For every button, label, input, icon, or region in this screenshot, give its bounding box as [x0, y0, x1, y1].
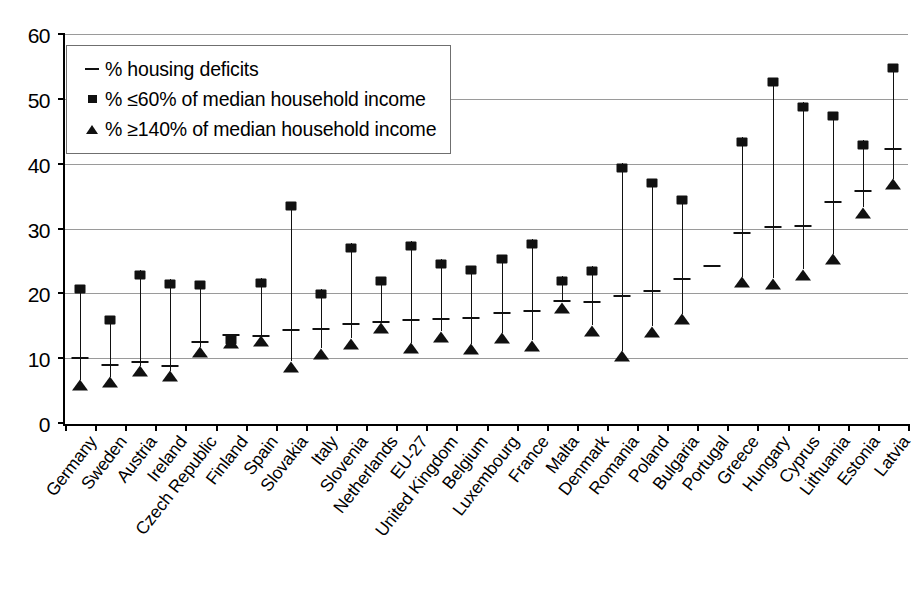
- gridline: [65, 34, 908, 35]
- legend-marker-glyph: [88, 95, 97, 103]
- marker-dash-housing-deficits: [343, 323, 360, 325]
- x-axis-tick-label: France: [537, 432, 554, 445]
- y-axis-tickmark: [58, 422, 65, 424]
- x-axis-tick-label: Hungary: [778, 432, 795, 445]
- range-stem: [170, 279, 171, 370]
- x-axis-tickmark: [757, 424, 759, 431]
- range-stem: [742, 137, 743, 276]
- marker-triangle-above-140-income: [403, 343, 419, 354]
- gridline: [65, 229, 908, 230]
- range-stem: [471, 266, 472, 344]
- y-axis-tickmark: [58, 292, 65, 294]
- marker-square-below-60-income: [827, 112, 838, 121]
- marker-square-below-60-income: [135, 270, 146, 279]
- range-stem: [833, 112, 834, 254]
- x-axis-tick-label: Greece: [747, 432, 764, 445]
- x-axis-tickmark: [396, 424, 398, 431]
- marker-square-below-60-income: [436, 259, 447, 268]
- y-axis-tickmark: [58, 163, 65, 165]
- x-axis-tick-label: United Kingdom: [446, 432, 463, 445]
- x-axis-tickmark: [818, 424, 820, 431]
- legend-item: % housing deficits: [79, 54, 436, 84]
- marker-square-below-60-income: [737, 137, 748, 146]
- x-axis-tick-label: Romania: [627, 432, 644, 445]
- marker-square-below-60-income: [797, 102, 808, 111]
- marker-dash-housing-deficits: [72, 357, 89, 359]
- marker-square-below-60-income: [466, 266, 477, 275]
- x-axis-tick-label: Lithuania: [838, 432, 855, 445]
- marker-square-below-60-income: [586, 266, 597, 275]
- marker-square-below-60-income: [496, 255, 507, 264]
- range-stem: [411, 241, 412, 343]
- marker-triangle-above-140-income: [102, 377, 118, 388]
- marker-dash-housing-deficits: [102, 364, 119, 366]
- marker-triangle-above-140-income: [162, 371, 178, 382]
- range-stem: [682, 196, 683, 314]
- x-axis-tick-label: Portugal: [717, 432, 734, 445]
- x-axis-tick-label: Denmark: [597, 432, 614, 445]
- marker-square-below-60-income: [616, 163, 627, 172]
- x-axis-tickmark: [517, 424, 519, 431]
- x-axis-tick-label: Italy: [326, 432, 343, 445]
- marker-square-below-60-income: [315, 289, 326, 298]
- marker-square-below-60-income: [195, 281, 206, 290]
- square-key-icon: [79, 95, 105, 103]
- marker-dash-housing-deficits: [132, 361, 149, 363]
- x-axis-tickmark: [456, 424, 458, 431]
- range-stem: [110, 316, 111, 377]
- x-axis-tickmark: [727, 424, 729, 431]
- marker-dash-housing-deficits: [704, 265, 721, 267]
- x-axis-tickmark: [426, 424, 428, 431]
- marker-triangle-above-140-income: [885, 179, 901, 190]
- legend-label: % housing deficits: [105, 58, 259, 81]
- x-axis-tick-label: Belgium: [476, 432, 493, 445]
- marker-dash-housing-deficits: [192, 341, 209, 343]
- gridline: [65, 358, 908, 359]
- x-axis-tick-label: Slovenia: [356, 432, 373, 445]
- marker-triangle-above-140-income: [554, 302, 570, 313]
- y-axis-tickmark: [58, 357, 65, 359]
- marker-triangle-above-140-income: [584, 325, 600, 336]
- marker-dash-housing-deficits: [794, 225, 811, 227]
- marker-square-below-60-income: [556, 276, 567, 285]
- x-axis-tickmark: [125, 424, 127, 431]
- x-axis-tickmark: [788, 424, 790, 431]
- range-stem: [773, 78, 774, 278]
- marker-triangle-above-140-income: [795, 269, 811, 280]
- marker-dash-housing-deficits: [463, 317, 480, 319]
- x-axis-tickmark: [155, 424, 157, 431]
- marker-dash-housing-deficits: [854, 190, 871, 192]
- marker-dash-housing-deficits: [312, 328, 329, 330]
- range-stem: [622, 163, 623, 350]
- marker-square-below-60-income: [165, 279, 176, 288]
- marker-triangle-above-140-income: [765, 278, 781, 289]
- marker-square-below-60-income: [767, 78, 778, 87]
- x-axis-tick-label: Germany: [85, 432, 102, 445]
- legend-label: % ≥140% of median household income: [105, 118, 436, 141]
- marker-triangle-above-140-income: [494, 333, 510, 344]
- marker-square-below-60-income: [677, 196, 688, 205]
- marker-dash-housing-deficits: [493, 312, 510, 314]
- marker-square-below-60-income: [857, 140, 868, 149]
- x-axis-tick-label: EU-27: [416, 432, 433, 445]
- range-stem: [200, 281, 201, 347]
- range-stem: [80, 285, 81, 380]
- marker-triangle-above-140-income: [674, 314, 690, 325]
- marker-square-below-60-income: [346, 243, 357, 252]
- y-axis-tickmark: [58, 33, 65, 35]
- marker-triangle-above-140-income: [72, 380, 88, 391]
- range-stem: [140, 270, 141, 365]
- marker-square-below-60-income: [647, 179, 658, 188]
- x-axis-tickmark: [366, 424, 368, 431]
- marker-dash-housing-deficits: [884, 148, 901, 150]
- marker-triangle-above-140-income: [343, 338, 359, 349]
- range-stem: [652, 179, 653, 326]
- x-axis-tick-label: Malta: [567, 432, 584, 445]
- marker-dash-housing-deficits: [583, 301, 600, 303]
- x-axis-tickmark: [246, 424, 248, 431]
- x-axis-tickmark: [637, 424, 639, 431]
- marker-triangle-above-140-income: [132, 366, 148, 377]
- x-axis-tick-label: Poland: [657, 432, 674, 445]
- marker-square-below-60-income: [406, 241, 417, 250]
- x-axis-tick-label: Ireland: [175, 432, 192, 445]
